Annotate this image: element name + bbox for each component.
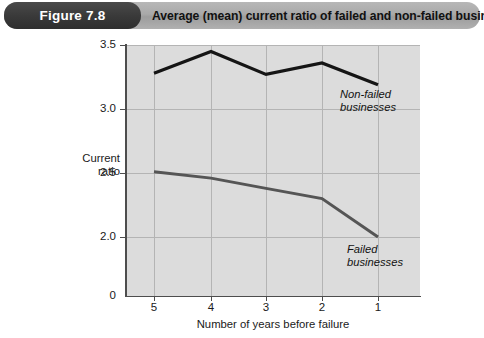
figure-container: Figure 7.8 Average (mean) current ratio … (0, 0, 484, 338)
series-line-non-failed (154, 51, 378, 84)
annotation-failed: Failed businesses (347, 243, 403, 269)
annotation-failed-line1: Failed (347, 243, 403, 256)
annotation-non-failed-line1: Non-failed (340, 88, 396, 101)
annotation-failed-line2: businesses (347, 256, 403, 269)
annotation-non-failed: Non-failed businesses (340, 88, 396, 114)
annotation-non-failed-line2: businesses (340, 101, 396, 114)
series-layer (0, 0, 484, 338)
series-line-failed (154, 172, 378, 237)
